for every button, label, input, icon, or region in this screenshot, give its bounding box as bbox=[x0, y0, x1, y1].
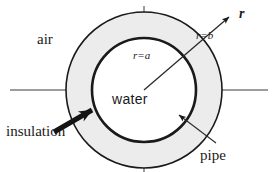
diagram-canvas bbox=[0, 0, 274, 172]
pipe-cross-section-figure: air insulation water pipe r r=b r=a bbox=[0, 0, 274, 172]
label-inner-radius: r=a bbox=[133, 50, 150, 61]
label-radial-vector: r bbox=[239, 7, 244, 21]
label-air: air bbox=[37, 32, 53, 47]
label-insulation: insulation bbox=[6, 124, 65, 139]
label-outer-radius: r=b bbox=[196, 30, 213, 41]
label-pipe: pipe bbox=[200, 148, 226, 163]
label-water: water bbox=[112, 92, 148, 106]
